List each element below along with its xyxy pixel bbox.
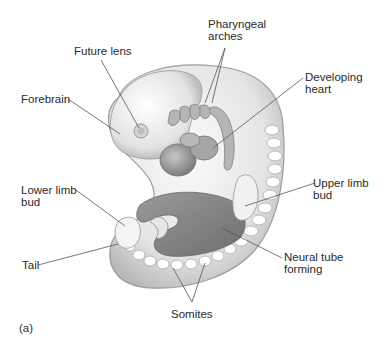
panel-label: (a) bbox=[19, 322, 33, 334]
label-developing-heart-1: Developing bbox=[305, 71, 363, 83]
label-neural-tube-2: forming bbox=[284, 263, 322, 275]
figure-caption-clipped bbox=[16, 344, 226, 350]
embryo-diagram: Future lens Forebrain Pharyngeal arches … bbox=[0, 0, 384, 350]
embryo-illustration bbox=[0, 0, 384, 350]
label-lower-limb-bud-2: bud bbox=[21, 196, 40, 208]
label-future-lens: Future lens bbox=[74, 45, 132, 57]
label-upper-limb-bud-2: bud bbox=[313, 189, 332, 201]
label-forebrain: Forebrain bbox=[21, 93, 70, 105]
future-lens bbox=[134, 124, 148, 138]
label-pharyngeal-arches-1: Pharyngeal bbox=[208, 18, 266, 30]
label-lower-limb-bud-1: Lower limb bbox=[21, 184, 77, 196]
label-upper-limb-bud-1: Upper limb bbox=[313, 177, 369, 189]
label-developing-heart-2: heart bbox=[305, 83, 331, 95]
label-tail: Tail bbox=[22, 259, 39, 271]
label-neural-tube-1: Neural tube bbox=[284, 251, 343, 263]
label-somites: Somites bbox=[171, 308, 213, 320]
label-pharyngeal-arches-2: arches bbox=[208, 30, 243, 42]
